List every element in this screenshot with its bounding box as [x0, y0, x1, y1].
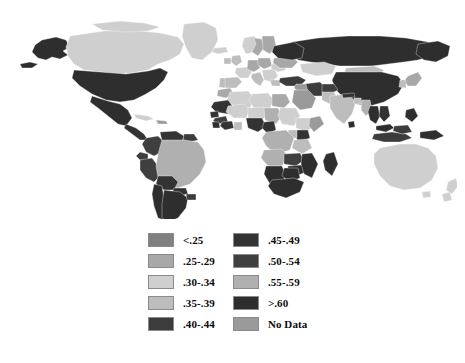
legend-item: No Data: [233, 313, 308, 334]
legend-column-left: <.25 .25-.29 .30-.34 .35-.39 .40-.44: [148, 229, 215, 334]
region-ireland: [224, 58, 231, 64]
legend-item: >.60: [233, 292, 308, 313]
legend-swatch: [233, 275, 259, 289]
legend-label: .30-.34: [183, 276, 215, 288]
region-united-kingdom: [231, 55, 242, 66]
legend-label: .25-.29: [183, 255, 215, 267]
region-sierra-leone: [212, 122, 220, 128]
region-uruguay: [186, 194, 196, 200]
legend-item: .30-.34: [148, 271, 215, 292]
legend-swatch: [148, 254, 174, 268]
region-cuba: [134, 114, 154, 121]
region-papua-new-guinea: [420, 130, 444, 140]
legend-item: .55-.59: [233, 271, 308, 292]
region-south-africa: [268, 178, 304, 198]
region-egypt: [272, 94, 290, 108]
region-indonesia: [372, 132, 412, 142]
region-greenland: [182, 22, 218, 60]
region-italy: [251, 72, 264, 86]
region-india: [330, 94, 356, 124]
world-map: [8, 14, 457, 219]
region-alaska-islands: [20, 62, 38, 68]
legend-swatch: [148, 296, 174, 310]
region-central-america: [124, 124, 148, 140]
legend-item: .25-.29: [148, 250, 215, 271]
legend-item: <.25: [148, 229, 215, 250]
legend-label: .50-.54: [268, 255, 300, 267]
region-portugal: [219, 78, 225, 88]
region-philippines: [405, 108, 418, 122]
legend-label: <.25: [183, 234, 203, 246]
region-japan: [404, 72, 422, 86]
region-tanzania: [292, 139, 312, 154]
legend-swatch: [148, 233, 174, 247]
legend-swatch: [233, 233, 259, 247]
legend-swatch: [233, 254, 259, 268]
world-map-svg: [8, 14, 457, 219]
legend-label: >.60: [268, 297, 288, 309]
region-hispaniola: [156, 120, 168, 124]
region-new-zealand-south: [442, 192, 452, 202]
legend-item: .50-.54: [233, 250, 308, 271]
legend-label: .45-.49: [268, 234, 300, 246]
legend-columns: <.25 .25-.29 .30-.34 .35-.39 .40-.44: [148, 229, 348, 334]
region-canada-arctic: [92, 21, 160, 32]
region-thailand: [368, 106, 380, 124]
region-kazakhstan: [300, 62, 336, 76]
region-korea: [399, 80, 406, 88]
region-sri-lanka: [348, 121, 355, 128]
region-poland: [258, 58, 272, 69]
region-new-zealand: [446, 178, 457, 194]
region-tasmania: [422, 191, 431, 198]
region-malaysia: [376, 124, 394, 132]
region-vietnam: [379, 106, 390, 122]
region-cote-divoire: [220, 121, 234, 130]
legend-swatch: [148, 317, 174, 331]
region-australia: [374, 144, 438, 190]
region-somalia: [309, 116, 324, 132]
region-senegal: [210, 111, 219, 118]
region-iceland: [212, 47, 228, 54]
region-ghana: [234, 122, 242, 130]
legend-label: No Data: [268, 318, 308, 330]
world-choropleth-figure: <.25 .25-.29 .30-.34 .35-.39 .40-.44: [0, 0, 465, 363]
map-legend: <.25 .25-.29 .30-.34 .35-.39 .40-.44: [148, 229, 348, 334]
region-mozambique: [301, 153, 318, 178]
legend-swatch: [233, 317, 259, 331]
region-madagascar: [323, 152, 338, 176]
legend-label: .35-.39: [183, 297, 215, 309]
legend-label: .40-.44: [183, 318, 215, 330]
legend-item: .35-.39: [148, 292, 215, 313]
region-greece: [270, 80, 280, 86]
legend-item: .40-.44: [148, 313, 215, 334]
region-libya: [249, 93, 274, 108]
region-canada: [66, 30, 184, 74]
legend-swatch: [148, 275, 174, 289]
legend-item: .45-.49: [233, 229, 308, 250]
legend-column-right: .45-.49 .50-.54 .55-.59 >.60 No Data: [233, 229, 308, 334]
region-alaska: [32, 37, 70, 60]
region-bangladesh: [354, 98, 362, 104]
region-nepal: [342, 93, 355, 98]
legend-swatch: [233, 296, 259, 310]
legend-label: .55-.59: [268, 276, 300, 288]
